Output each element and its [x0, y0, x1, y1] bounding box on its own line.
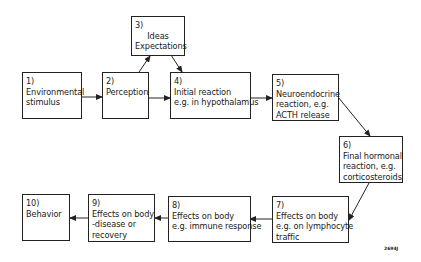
node-label-line: e.g. immune response: [172, 221, 247, 232]
node-number: 10): [26, 198, 66, 209]
node-behavior: 10) Behavior: [22, 194, 70, 241]
arrow-6-to-7: [349, 183, 369, 220]
node-ideas-expectations: 3) Ideas Expectations: [131, 16, 185, 56]
node-number: 3): [135, 20, 181, 31]
arrow-2-to-3: [139, 56, 150, 72]
node-label-line: Final hormonal: [343, 151, 399, 162]
node-label-line: e.g. on lymphocyte: [276, 221, 345, 232]
node-environmental-stimulus: 1) Environmental stimulus: [22, 72, 82, 119]
node-label-line: traffic: [276, 232, 345, 243]
node-perception: 2) Perception: [102, 72, 149, 119]
node-neuroendocrine-reaction: 5) Neuroendocrine reaction, e.g. ACTH re…: [272, 74, 339, 121]
node-label-line: ACTH release: [276, 110, 335, 121]
node-effects-disease-recovery: 9) Effects on body -disease or recovery: [88, 194, 155, 242]
node-label-line: Ideas: [135, 31, 181, 42]
node-label-line: -disease or: [92, 219, 151, 230]
node-label-line: Effects on body: [276, 211, 345, 222]
node-number: 4): [174, 76, 247, 87]
node-label-line: Environmental: [26, 87, 78, 98]
node-label-line: recovery: [92, 230, 151, 241]
node-label-line: Behavior: [26, 209, 66, 220]
figure-id: 2694J: [384, 246, 398, 251]
node-number: 5): [276, 78, 335, 89]
node-label-line: Perception: [106, 87, 145, 98]
node-initial-reaction: 4) Initial reaction e.g. in hypothalamus: [170, 72, 251, 119]
node-effects-immune-response: 8) Effects on body e.g. immune response: [168, 196, 251, 242]
arrow-3-to-4: [171, 55, 182, 72]
node-number: 6): [343, 140, 399, 151]
arrow-5-to-6: [338, 97, 370, 136]
node-label-line: reaction, e.g.: [343, 161, 399, 172]
node-label-line: Neuroendocrine: [276, 89, 335, 100]
node-label-line: reaction, e.g.: [276, 99, 335, 110]
node-effects-lymphocyte-traffic: 7) Effects on body e.g. on lymphocyte tr…: [272, 196, 349, 243]
node-label-line: e.g. in hypothalamus: [174, 97, 247, 108]
node-number: 1): [26, 76, 78, 87]
node-label-line: Initial reaction: [174, 87, 247, 98]
node-label-line: Expectations: [135, 41, 181, 52]
node-final-hormonal-reaction: 6) Final hormonal reaction, e.g. cortico…: [339, 136, 403, 183]
node-number: 7): [276, 200, 345, 211]
node-number: 9): [92, 198, 151, 209]
node-label-line: stimulus: [26, 97, 78, 108]
node-label-line: corticosteroids: [343, 172, 399, 183]
node-number: 2): [106, 76, 145, 87]
node-number: 8): [172, 200, 247, 211]
node-label-line: Effects on body: [92, 209, 151, 220]
node-label-line: Effects on body: [172, 211, 247, 222]
